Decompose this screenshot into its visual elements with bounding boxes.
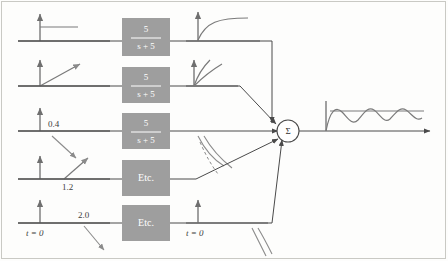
row-2-to-sum-wire	[240, 86, 276, 124]
block-row-4-label: Etc.	[138, 172, 154, 183]
block-row-5: Etc.	[122, 205, 170, 241]
block-diagram-figure: 5 s + 5 5 s + 5 0.4 5 s + 5	[0, 0, 448, 261]
final-output-plot	[326, 101, 424, 131]
annotation-arrow-row-3	[52, 136, 76, 158]
row-3-input-plot	[18, 108, 110, 131]
input-amplitude-row-4: 1.2	[62, 182, 73, 192]
row-3-output-plot	[198, 136, 232, 168]
block-row-1-denominator: s + 5	[137, 41, 155, 51]
summing-junction: Σ	[277, 120, 299, 142]
input-amplitude-row-3: 0.4	[48, 119, 60, 129]
annotation-arrow-row-5	[84, 226, 104, 250]
input-amplitude-row-5: 2.0	[78, 210, 90, 220]
row-2-input-plot	[18, 60, 110, 86]
block-row-5-label: Etc.	[138, 217, 154, 228]
row-4-input-plot	[18, 156, 110, 179]
row-2-output-plot	[186, 60, 238, 86]
block-row-2-numerator: 5	[144, 72, 149, 82]
row-5-input-plot	[18, 200, 110, 223]
figure-border	[2, 2, 446, 259]
block-row-1-numerator: 5	[144, 24, 149, 34]
row-5-to-sum-wire	[272, 140, 282, 223]
block-row-3: 5 s + 5	[122, 113, 170, 149]
block-row-4: Etc.	[122, 160, 170, 196]
block-row-3-numerator: 5	[144, 118, 149, 128]
block-row-3-denominator: s + 5	[137, 135, 155, 145]
block-row-2: 5 s + 5	[122, 67, 170, 103]
row-1-input-plot	[18, 14, 110, 41]
block-row-2-denominator: s + 5	[137, 89, 155, 99]
input-time-origin-row-5: t = 0	[26, 228, 44, 238]
row-1-output-plot	[186, 12, 260, 41]
summing-junction-symbol: Σ	[285, 126, 290, 136]
block-row-1: 5 s + 5	[122, 18, 170, 56]
output-time-origin-row-5: t = 0	[186, 228, 204, 238]
